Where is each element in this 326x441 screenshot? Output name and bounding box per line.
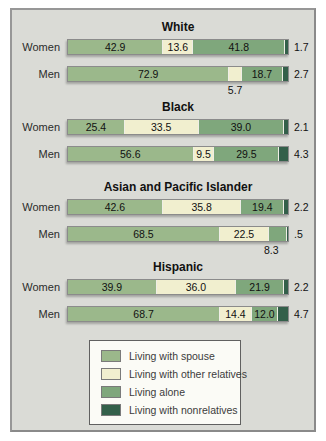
- legend-swatch: [101, 404, 121, 416]
- segment-value: 35.8: [191, 201, 211, 213]
- group-title: Hispanic: [67, 260, 289, 274]
- legend-swatch: [101, 350, 121, 362]
- legend-item-living-alone: Living alone: [101, 385, 240, 398]
- end-value: 2.7: [289, 68, 309, 80]
- legend-swatch: [101, 386, 121, 398]
- figure-panel: WhiteWomen42.913.641.81.7Men72.918.75.72…: [10, 8, 316, 432]
- bar-segment-living-with-other-relatives: 36.0: [156, 280, 235, 294]
- bar-segment-living-with-nonrelatives: [283, 280, 288, 294]
- end-value: 2.1: [289, 121, 309, 133]
- legend-label: Living with nonrelatives: [129, 404, 238, 416]
- segment-value: 42.6: [105, 201, 125, 213]
- chart-group-black: BlackWomen25.433.539.02.1Men56.69.529.54…: [12, 100, 314, 162]
- row-label: Men: [12, 66, 67, 82]
- bar-segment-living-alone: 19.4: [240, 200, 283, 214]
- stacked-bar: 72.918.7: [67, 66, 289, 82]
- group-title: White: [67, 20, 289, 34]
- bar-segment-living-alone: 12.0: [251, 307, 277, 321]
- bar-segment-living-alone: 41.8: [192, 40, 284, 54]
- bar-wrap: 68.714.412.0: [67, 306, 289, 322]
- bar-segment-living-with-other-relatives: [228, 67, 241, 81]
- segment-value: 9.5: [196, 148, 211, 160]
- bar-segment-living-with-spouse: 68.7: [68, 307, 219, 321]
- segment-value: 22.5: [234, 228, 254, 240]
- group-title: Asian and Pacific Islander: [67, 180, 289, 194]
- bar-segment-living-with-nonrelatives: [277, 307, 287, 321]
- chart-groups: WhiteWomen42.913.641.81.7Men72.918.75.72…: [12, 20, 314, 322]
- segment-value: 36.0: [186, 281, 206, 293]
- stacked-bar: 42.913.641.8: [67, 39, 289, 55]
- stacked-bar: 42.635.819.4: [67, 199, 289, 215]
- segment-value: 42.9: [105, 41, 125, 53]
- segment-value: 68.5: [133, 228, 153, 240]
- bar-segment-living-with-other-relatives: 9.5: [193, 147, 214, 161]
- bar-segment-living-with-other-relatives: 33.5: [124, 120, 198, 134]
- end-value: 2.2: [289, 281, 309, 293]
- bar-row-hispanic-women: Women39.936.021.92.2: [12, 279, 314, 295]
- bar-segment-living-with-other-relatives: 35.8: [162, 200, 241, 214]
- bar-segment-living-with-nonrelatives: [283, 120, 288, 134]
- legend-item-living-with-nonrelatives: Living with nonrelatives: [101, 403, 240, 416]
- bar-row-asian-and-pacific-islander-men: Men68.522.58.3.5: [12, 226, 314, 242]
- bar-row-white-men: Men72.918.75.72.7: [12, 66, 314, 82]
- end-value: 1.7: [289, 41, 309, 53]
- bar-segment-living-alone: 29.5: [213, 147, 278, 161]
- stacked-bar: 68.714.412.0: [67, 306, 289, 322]
- bar-segment-living-with-nonrelatives: [286, 227, 288, 241]
- bar-segment-living-with-nonrelatives: [283, 200, 288, 214]
- group-title: Black: [67, 100, 289, 114]
- row-label: Women: [12, 199, 67, 215]
- bar-segment-living-with-nonrelatives: [284, 40, 288, 54]
- segment-value: 25.4: [86, 121, 106, 133]
- segment-value: 29.5: [236, 148, 256, 160]
- bar-segment-living-with-spouse: 56.6: [68, 147, 193, 161]
- stacked-bar: 25.433.539.0: [67, 119, 289, 135]
- segment-value: 18.7: [252, 68, 272, 80]
- segment-value: 12.0: [254, 308, 274, 320]
- row-label: Men: [12, 226, 67, 242]
- legend-label: Living with other relatives: [129, 368, 247, 380]
- legend-item-living-with-other-relatives: Living with other relatives: [101, 367, 240, 380]
- end-value: 4.3: [289, 148, 309, 160]
- below-bar-value: 8.3: [264, 244, 279, 256]
- bar-segment-living-with-spouse: 42.6: [68, 200, 162, 214]
- bar-segment-living-alone: [268, 227, 286, 241]
- segment-value: 56.6: [120, 148, 140, 160]
- legend-label: Living alone: [129, 386, 185, 398]
- row-label: Women: [12, 279, 67, 295]
- legend: Living with spouseLiving with other rela…: [89, 340, 241, 425]
- bar-wrap: 72.918.75.7: [67, 66, 289, 82]
- chart-group-asian-and-pacific-islander: Asian and Pacific IslanderWomen42.635.81…: [12, 180, 314, 242]
- segment-value: 33.5: [151, 121, 171, 133]
- bar-segment-living-with-other-relatives: 14.4: [219, 307, 251, 321]
- bar-segment-living-with-spouse: 42.9: [68, 40, 162, 54]
- bar-segment-living-with-spouse: 39.9: [68, 280, 156, 294]
- chart-group-white: WhiteWomen42.913.641.81.7Men72.918.75.72…: [12, 20, 314, 82]
- segment-value: 41.8: [229, 41, 249, 53]
- bar-segment-living-with-spouse: 68.5: [68, 227, 219, 241]
- row-label: Women: [12, 39, 67, 55]
- end-value: 2.2: [289, 201, 309, 213]
- legend-item-living-with-spouse: Living with spouse: [101, 349, 240, 362]
- bar-segment-living-with-spouse: 72.9: [68, 67, 228, 81]
- row-label: Women: [12, 119, 67, 135]
- bar-segment-living-alone: 21.9: [235, 280, 283, 294]
- bar-segment-living-alone: 18.7: [241, 67, 282, 81]
- stacked-bar: 68.522.5: [67, 226, 289, 242]
- chart-group-hispanic: HispanicWomen39.936.021.92.2Men68.714.41…: [12, 260, 314, 322]
- legend-label: Living with spouse: [129, 350, 215, 362]
- bar-wrap: 42.913.641.8: [67, 39, 289, 55]
- bar-row-asian-and-pacific-islander-women: Women42.635.819.42.2: [12, 199, 314, 215]
- segment-value: 19.4: [252, 201, 272, 213]
- bar-segment-living-with-nonrelatives: [278, 147, 287, 161]
- segment-value: 14.4: [225, 308, 245, 320]
- segment-value: 72.9: [138, 68, 158, 80]
- end-value: .5: [289, 228, 303, 240]
- segment-value: 21.9: [249, 281, 269, 293]
- row-label: Men: [12, 306, 67, 322]
- bar-row-white-women: Women42.913.641.81.7: [12, 39, 314, 55]
- end-value: 4.7: [289, 308, 309, 320]
- stacked-bar: 56.69.529.5: [67, 146, 289, 162]
- bar-wrap: 42.635.819.4: [67, 199, 289, 215]
- segment-value: 68.7: [133, 308, 153, 320]
